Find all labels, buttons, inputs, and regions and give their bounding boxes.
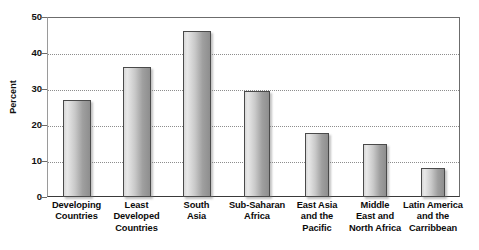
x-category-label-line: Latin America [391, 200, 475, 211]
bars-layer [47, 17, 460, 197]
y-tick-label: 20 [14, 120, 42, 130]
y-tick-mark [41, 197, 47, 198]
y-tick-label: 40 [14, 48, 42, 58]
x-category-label: Latin Americaand theCarribbean [391, 200, 475, 234]
bar [244, 91, 270, 197]
x-axis-category-labels: DevelopingCountriesLeastDevelopedCountri… [47, 200, 460, 250]
x-category-label-line: and the [391, 211, 475, 222]
y-tick-label: 30 [14, 84, 42, 94]
y-tick-label: 10 [14, 156, 42, 166]
x-category-label-line: Countries [95, 223, 179, 234]
bar [123, 67, 151, 197]
bar [183, 31, 211, 197]
bar [421, 168, 445, 197]
bar [63, 100, 91, 197]
bar [305, 133, 329, 197]
y-tick-label: 50 [14, 12, 42, 22]
x-category-label-line: Carribbean [391, 223, 475, 234]
bar-chart: Percent 50403020100 DevelopingCountriesL… [0, 0, 479, 250]
bar [363, 144, 387, 197]
